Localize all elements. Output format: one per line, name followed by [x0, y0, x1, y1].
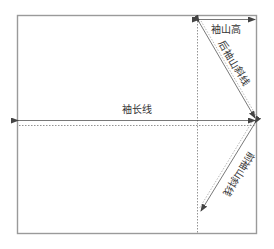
- label-sleeve-cap-height: 袖山高: [211, 23, 241, 35]
- label-back-cap-slope: 后袖山斜线: [217, 38, 253, 87]
- label-front-cap-slope: 前袖山斜线: [221, 150, 257, 199]
- back-cap-slope-dotted: [201, 21, 257, 117]
- label-sleeve-length: 袖长线: [122, 103, 152, 115]
- sleeve-diagram: 袖山高 后袖山斜线 袖长线 前袖山斜线: [0, 0, 274, 249]
- back-cap-slope-arrow: [199, 22, 255, 118]
